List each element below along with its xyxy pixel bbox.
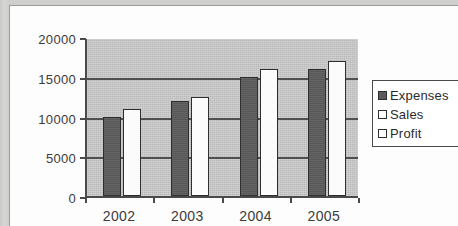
chart-legend: ExpensesSalesProfit (372, 80, 458, 147)
x-axis-tick-label: 2002 (103, 208, 136, 224)
legend-item-sales: Sales (378, 105, 458, 124)
plot-area (85, 39, 358, 198)
bar-expenses-2003 (171, 101, 189, 196)
y-axis-tick-label: 20000 (10, 32, 76, 47)
legend-item-label: Profit (390, 126, 422, 141)
x-axis-tick-mark (290, 198, 292, 203)
y-axis-tick-label: 0 (10, 191, 76, 206)
x-axis-tick-mark (222, 198, 224, 203)
y-axis-tick-label: 5000 (10, 151, 76, 166)
legend-swatch-icon (378, 110, 387, 119)
bar-sales-2002 (123, 109, 141, 196)
bar-sales-2005 (328, 61, 346, 196)
legend-item-label: Expenses (390, 88, 449, 103)
bar-chart-figure: 05000100001500020000 2002200320042005 Ex… (9, 5, 458, 226)
x-axis-tick-mark (85, 198, 87, 203)
legend-swatch-icon (378, 129, 387, 138)
x-axis-tick-label: 2004 (239, 208, 272, 224)
legend-item-expenses: Expenses (378, 86, 458, 105)
legend-item-profit: Profit (378, 124, 458, 143)
bar-expenses-2004 (240, 77, 258, 196)
bar-expenses-2005 (308, 69, 326, 196)
legend-item-label: Sales (390, 107, 424, 122)
bar-sales-2004 (260, 69, 278, 196)
x-axis-tick-mark (153, 198, 155, 203)
y-axis-tick-label: 10000 (10, 111, 76, 126)
legend-swatch-icon (378, 91, 387, 100)
y-axis-tick-label: 15000 (10, 71, 76, 86)
bar-expenses-2002 (103, 117, 121, 197)
x-axis-tick-label: 2003 (171, 208, 204, 224)
x-axis-tick-label: 2005 (308, 208, 341, 224)
x-axis-tick-mark (358, 198, 360, 203)
bar-sales-2003 (191, 97, 209, 196)
